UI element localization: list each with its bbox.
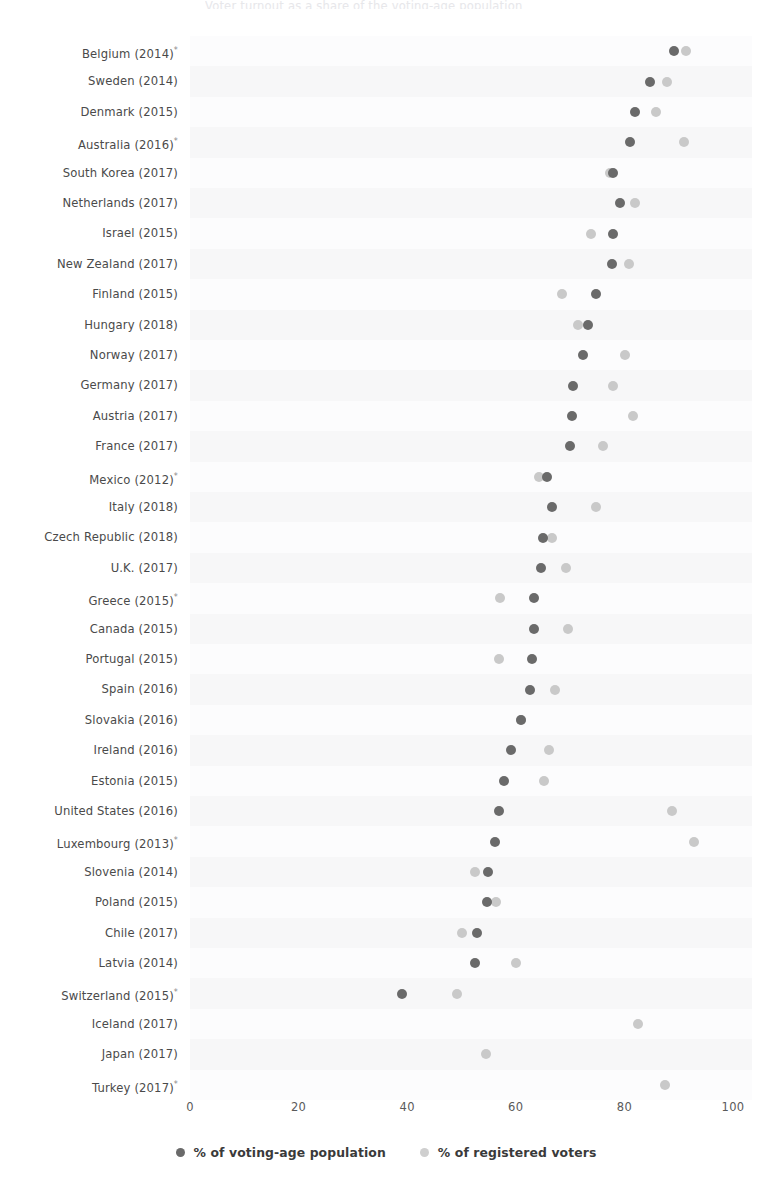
dot-voting-age-population (470, 958, 480, 968)
row-label: France (2017) (0, 431, 178, 461)
chart-row: Ireland (2016) (0, 735, 772, 765)
chart-row: Iceland (2017) (0, 1009, 772, 1039)
x-axis-tick: 40 (377, 1100, 437, 1114)
dot-registered-voters (628, 411, 638, 421)
dot-registered-voters (630, 198, 640, 208)
chart-row: Italy (2018) (0, 492, 772, 522)
chart-row: Canada (2015) (0, 614, 772, 644)
row-label: Austria (2017) (0, 401, 178, 431)
dot-registered-voters (563, 624, 573, 634)
dot-registered-voters (470, 867, 480, 877)
chart-row: Germany (2017) (0, 370, 772, 400)
row-background (190, 310, 752, 340)
x-axis-tick: 100 (703, 1100, 763, 1114)
row-background (190, 766, 752, 796)
x-axis-tick: 80 (594, 1100, 654, 1114)
dot-voting-age-population (568, 381, 578, 391)
chart-row: Austria (2017) (0, 401, 772, 431)
row-background (190, 279, 752, 309)
chart-row: Czech Republic (2018) (0, 522, 772, 552)
row-background (190, 826, 752, 856)
dot-registered-voters (660, 1080, 670, 1090)
row-background (190, 462, 752, 492)
chart-row: Luxembourg (2013)* (0, 826, 772, 856)
row-label: Norway (2017) (0, 340, 178, 370)
chart-row: Denmark (2015) (0, 97, 772, 127)
row-background (190, 340, 752, 370)
dot-voting-age-population (607, 259, 617, 269)
row-label: Portugal (2015) (0, 644, 178, 674)
dot-voting-age-population (538, 533, 548, 543)
row-label: Estonia (2015) (0, 766, 178, 796)
row-background (190, 674, 752, 704)
row-label: Spain (2016) (0, 674, 178, 704)
row-label: Poland (2015) (0, 887, 178, 917)
dot-registered-voters (591, 502, 601, 512)
legend-item-registered[interactable]: % of registered voters (420, 1145, 597, 1160)
chart-row: Greece (2015)* (0, 583, 772, 613)
row-background (190, 370, 752, 400)
row-label: Italy (2018) (0, 492, 178, 522)
row-background (190, 218, 752, 248)
row-background (190, 583, 752, 613)
x-axis-tick: 0 (160, 1100, 220, 1114)
dot-registered-voters (633, 1019, 643, 1029)
dot-registered-voters (586, 229, 596, 239)
row-label: Israel (2015) (0, 218, 178, 248)
row-background (190, 978, 752, 1008)
row-background (190, 887, 752, 917)
row-label: Slovakia (2016) (0, 705, 178, 735)
row-background (190, 522, 752, 552)
row-background (190, 614, 752, 644)
row-label: Turkey (2017)* (0, 1070, 178, 1100)
row-label: Netherlands (2017) (0, 188, 178, 218)
footnote-marker: * (174, 593, 178, 602)
x-axis-tick: 20 (269, 1100, 329, 1114)
row-background (190, 36, 752, 66)
legend-item-voting_age[interactable]: % of voting-age population (176, 1145, 386, 1160)
chart-row: Slovakia (2016) (0, 705, 772, 735)
chart-row: Mexico (2012)* (0, 462, 772, 492)
chart-row: Finland (2015) (0, 279, 772, 309)
row-label: Luxembourg (2013)* (0, 826, 178, 856)
legend-dot-icon (420, 1148, 429, 1157)
row-label: Czech Republic (2018) (0, 522, 178, 552)
chart-row: U.K. (2017) (0, 553, 772, 583)
dot-registered-voters (561, 563, 571, 573)
chart-legend: % of voting-age population% of registere… (0, 1140, 772, 1164)
dot-voting-age-population (583, 320, 593, 330)
dot-voting-age-population (567, 411, 577, 421)
legend-label: % of registered voters (438, 1145, 597, 1160)
dot-registered-voters (452, 989, 462, 999)
plot-area: Belgium (2014)*Sweden (2014)Denmark (201… (0, 22, 772, 1092)
footnote-marker: * (174, 137, 178, 146)
dot-voting-age-population (578, 350, 588, 360)
chart-row: Australia (2016)* (0, 127, 772, 157)
dot-voting-age-population (529, 624, 539, 634)
chart-row: Netherlands (2017) (0, 188, 772, 218)
row-background (190, 705, 752, 735)
legend-label: % of voting-age population (194, 1145, 386, 1160)
row-label: Hungary (2018) (0, 310, 178, 340)
footnote-marker: * (174, 46, 178, 55)
chart-row: Norway (2017) (0, 340, 772, 370)
dot-voting-age-population (527, 654, 537, 664)
chart-row: Chile (2017) (0, 918, 772, 948)
dot-voting-age-population (499, 776, 509, 786)
row-label: Ireland (2016) (0, 735, 178, 765)
chart-row: Poland (2015) (0, 887, 772, 917)
chart-row: Sweden (2014) (0, 66, 772, 96)
row-label: Switzerland (2015)* (0, 978, 178, 1008)
row-background (190, 735, 752, 765)
row-label: Latvia (2014) (0, 948, 178, 978)
row-label: Iceland (2017) (0, 1009, 178, 1039)
dot-voting-age-population (645, 77, 655, 87)
chart-row: Estonia (2015) (0, 766, 772, 796)
row-label: South Korea (2017) (0, 158, 178, 188)
row-label: Mexico (2012)* (0, 462, 178, 492)
dot-voting-age-population (630, 107, 640, 117)
row-label: Australia (2016)* (0, 127, 178, 157)
row-label: Japan (2017) (0, 1039, 178, 1069)
chart-row: Belgium (2014)* (0, 36, 772, 66)
footnote-marker: * (174, 472, 178, 481)
